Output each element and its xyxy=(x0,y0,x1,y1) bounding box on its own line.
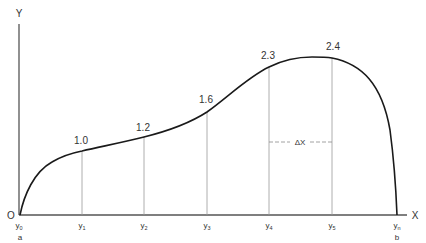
value-label-y4: 2.3 xyxy=(261,50,275,61)
tick-label-y2: y2 xyxy=(140,221,147,231)
tick-label-yn: yn xyxy=(393,221,400,231)
tick-label-y0: y0 xyxy=(15,221,22,231)
tick-label-y3: y3 xyxy=(203,221,210,231)
tick-label-y4: y4 xyxy=(265,221,272,231)
origin-label: O xyxy=(7,210,15,221)
area-under-curve-diagram: Y X O 1.0 1.2 1.6 2.3 2.4 ΔX y0 y1 y2 y3… xyxy=(0,0,426,243)
delta-x-label: ΔX xyxy=(295,138,306,147)
tick-label-y5: y5 xyxy=(328,221,335,231)
y-axis-label: Y xyxy=(16,8,23,19)
x-axis-label: X xyxy=(412,210,419,221)
value-label-y3: 1.6 xyxy=(199,94,213,105)
value-label-y1: 1.0 xyxy=(74,135,88,146)
value-label-y2: 1.2 xyxy=(136,122,150,133)
tick-label-y1: y1 xyxy=(78,221,85,231)
bound-a-label: a xyxy=(18,233,23,242)
value-label-y5: 2.4 xyxy=(326,41,340,52)
bound-b-label: b xyxy=(395,233,400,242)
